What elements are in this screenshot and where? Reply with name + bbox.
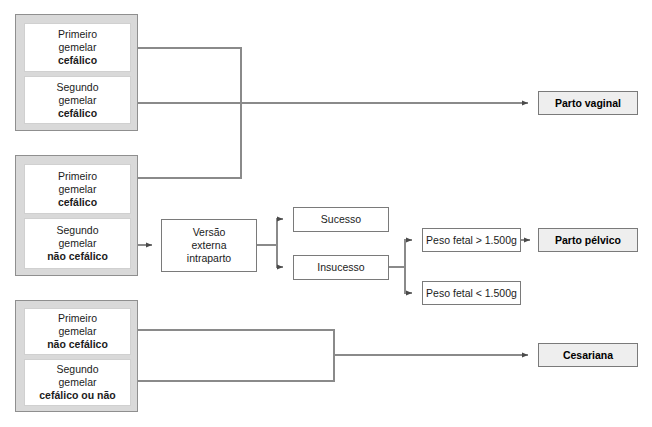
- node-g3-first-label: Primeirogemelarnão cefálico: [47, 312, 108, 351]
- wire-versao-to-insucesso: [277, 245, 283, 267]
- result-insucesso-label: Insucesso: [317, 261, 364, 274]
- node-g3-second[interactable]: Segundogemelarcefálico ou não: [24, 359, 131, 406]
- outcome-parto-pelvico-label: Parto pélvico: [555, 234, 621, 246]
- node-g1-second-label: Segundogemelarcefálico: [56, 81, 98, 120]
- outcome-parto-vaginal-label: Parto vaginal: [555, 97, 621, 109]
- group-1: Primeirogemelarcefálico Segundogemelarce…: [15, 14, 138, 131]
- result-sucesso[interactable]: Sucesso: [293, 207, 389, 232]
- wire-g1first-to-g2first: [138, 48, 241, 178]
- node-g3-second-label: Segundogemelarcefálico ou não: [39, 363, 115, 402]
- node-g2-second[interactable]: Segundogemelarnão cefálico: [24, 218, 131, 269]
- outcome-cesariana[interactable]: Cesariana: [538, 343, 638, 367]
- process-versao-externa-intraparto[interactable]: Versãoexternaintraparto: [161, 219, 257, 272]
- wire-insucesso-to-pesomenor: [405, 267, 412, 293]
- wire-versao-to-sucesso: [277, 219, 283, 245]
- flowchart-canvas: Primeirogemelarcefálico Segundogemelarce…: [0, 0, 652, 427]
- result-peso-fetal-menor[interactable]: Peso fetal < 1.500g: [422, 281, 521, 305]
- wire-g3-merge: [138, 330, 334, 381]
- outcome-parto-vaginal[interactable]: Parto vaginal: [538, 91, 638, 115]
- result-sucesso-label: Sucesso: [321, 213, 361, 226]
- result-insucesso[interactable]: Insucesso: [293, 255, 389, 280]
- outcome-parto-pelvico[interactable]: Parto pélvico: [538, 228, 638, 252]
- node-g2-first[interactable]: Primeirogemelarcefálico: [24, 164, 131, 214]
- process-versao-label: Versãoexternaintraparto: [187, 226, 231, 265]
- node-g3-first[interactable]: Primeirogemelarnão cefálico: [24, 308, 131, 355]
- node-g1-second[interactable]: Segundogemelarcefálico: [24, 76, 131, 124]
- result-peso-fetal-menor-label: Peso fetal < 1.500g: [426, 287, 517, 300]
- node-g2-first-label: Primeirogemelarcefálico: [58, 170, 97, 209]
- outcome-cesariana-label: Cesariana: [563, 349, 613, 361]
- group-3: Primeirogemelarnão cefálico Segundogemel…: [15, 300, 138, 412]
- node-g2-second-label: Segundogemelarnão cefálico: [47, 224, 108, 263]
- wire-insucesso-to-pesomaior: [405, 240, 412, 267]
- node-g1-first[interactable]: Primeirogemelarcefálico: [24, 23, 131, 72]
- result-peso-fetal-maior-label: Peso fetal > 1.500g: [426, 234, 517, 247]
- result-peso-fetal-maior[interactable]: Peso fetal > 1.500g: [422, 228, 521, 252]
- node-g1-first-label: Primeirogemelarcefálico: [58, 28, 97, 67]
- group-2: Primeirogemelarcefálico Segundogemelarnã…: [15, 155, 138, 276]
